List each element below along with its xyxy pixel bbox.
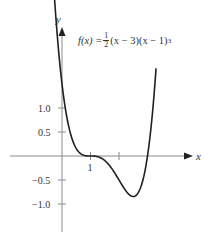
function-label-body: (x − 3)(x − 1) (110, 35, 167, 46)
y-tick-label-0.5: 0.5 (38, 127, 51, 138)
y-axis-arrow-icon (59, 27, 66, 36)
function-label-prefix: f(x) = (78, 35, 102, 46)
y-tick-label-neg0.5: −0.5 (32, 175, 50, 186)
function-label: f(x) = 1 2 (x − 3)(x − 1)3 (78, 32, 171, 49)
y-tick-label-1.0: 1.0 (38, 103, 51, 114)
function-curve (52, 0, 156, 196)
x-axis-arrow-icon (184, 153, 193, 160)
function-label-exponent: 3 (168, 37, 172, 45)
fraction: 1 2 (103, 32, 109, 49)
fraction-denominator: 2 (104, 41, 108, 49)
x-axis-label: x (195, 150, 201, 162)
y-tick-label-neg1.0: −1.0 (32, 199, 50, 210)
x-tick-label-1: 1 (88, 162, 93, 173)
fraction-numerator: 1 (104, 32, 108, 40)
